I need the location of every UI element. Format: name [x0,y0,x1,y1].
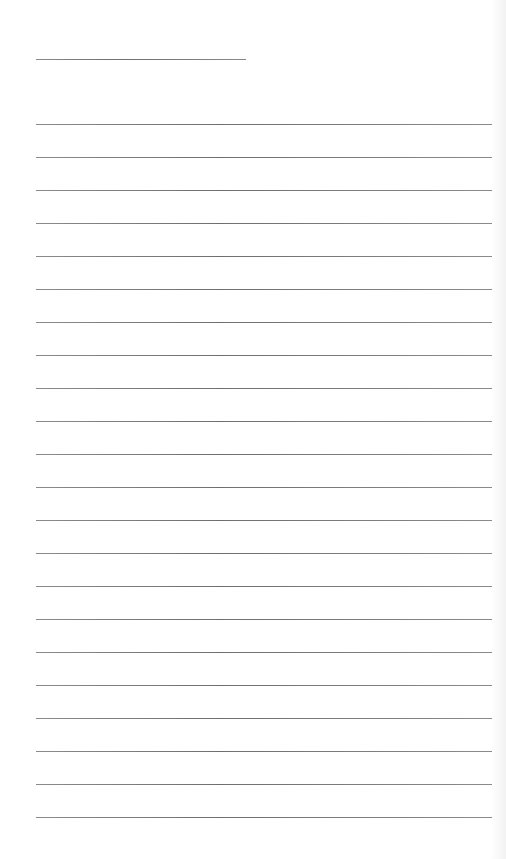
ruled-line [36,256,492,257]
ruled-line [36,751,492,752]
ruled-line [36,487,492,488]
ruled-line [36,619,492,620]
ruled-line [36,520,492,521]
ruled-line [36,289,492,290]
ruled-line [36,685,492,686]
ruled-line [36,322,492,323]
ruled-line [36,190,492,191]
ruled-line [36,454,492,455]
ruled-line [36,223,492,224]
title-line [36,59,246,60]
ruled-line [36,124,492,125]
ruled-line [36,586,492,587]
ruled-line [36,553,492,554]
ruled-line [36,652,492,653]
ruled-page [0,0,506,859]
ruled-line [36,355,492,356]
ruled-line [36,388,492,389]
ruled-line [36,784,492,785]
ruled-line [36,421,492,422]
ruled-line [36,157,492,158]
ruled-line [36,718,492,719]
ruled-line [36,817,492,818]
